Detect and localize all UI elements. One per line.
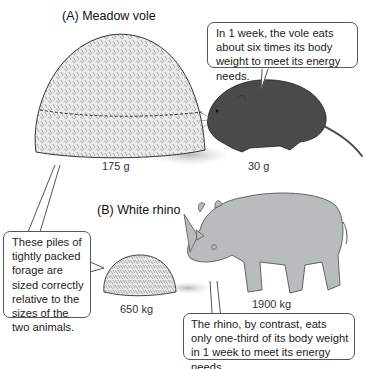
vole-weight: 30 g	[248, 160, 269, 172]
panel-b-title: (B) White rhino	[97, 203, 180, 217]
rhino-weight: 1900 kg	[252, 298, 291, 310]
rhino-callout: The rhino, by contrast, eats only one-th…	[183, 313, 355, 360]
forage-pile-rhino	[104, 255, 210, 296]
forage-weight-vole: 175 g	[102, 160, 130, 172]
vole-illustration	[199, 80, 362, 156]
panel-a-title: (A) Meadow vole	[62, 9, 156, 23]
forage-weight-rhino: 650 kg	[120, 303, 153, 315]
forage-size-callout: These piles of tightly packed forage are…	[3, 231, 91, 318]
forage-pile-vole	[35, 34, 230, 165]
rhino-illustration	[184, 193, 347, 293]
vole-callout: In 1 week, the vole eats about six times…	[207, 22, 358, 68]
